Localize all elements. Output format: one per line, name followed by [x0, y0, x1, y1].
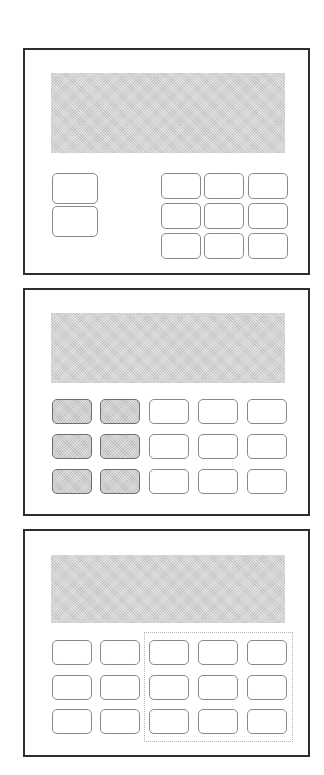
device-1-key-11[interactable] [248, 233, 288, 259]
device-2-key-13[interactable] [149, 469, 189, 494]
device-2-key-3[interactable] [149, 399, 189, 424]
device-1-key-7[interactable] [204, 203, 244, 229]
device-1-key-3[interactable] [161, 173, 201, 199]
device-3-key-12[interactable] [100, 709, 140, 734]
device-2-key-11-shaded[interactable] [52, 469, 92, 494]
device-2-key-5[interactable] [247, 399, 287, 424]
device-2-key-8[interactable] [149, 434, 189, 459]
device-2-display-panel [51, 313, 285, 383]
device-1-key-10[interactable] [204, 233, 244, 259]
device-2-key-9[interactable] [198, 434, 238, 459]
device-3-key-10[interactable] [247, 675, 287, 700]
device-2-key-12-shaded[interactable] [100, 469, 140, 494]
device-1-key-1[interactable] [52, 173, 98, 204]
device-3-key-7[interactable] [100, 675, 140, 700]
device-1-key-8[interactable] [248, 203, 288, 229]
device-2-key-4[interactable] [198, 399, 238, 424]
device-2-key-6-shaded[interactable] [52, 434, 92, 459]
device-3-key-14[interactable] [198, 709, 238, 734]
device-3-key-5[interactable] [247, 640, 287, 665]
device-2-key-7-shaded[interactable] [100, 434, 140, 459]
device-3-display-panel [51, 555, 285, 623]
device-1-key-2[interactable] [52, 206, 98, 237]
device-3-key-3[interactable] [149, 640, 189, 665]
device-1-key-4[interactable] [204, 173, 244, 199]
device-2-key-2-shaded[interactable] [100, 399, 140, 424]
device-3-key-2[interactable] [100, 640, 140, 665]
device-1-key-6[interactable] [161, 203, 201, 229]
device-3-key-8[interactable] [149, 675, 189, 700]
device-3-key-11[interactable] [52, 709, 92, 734]
device-1-key-5[interactable] [248, 173, 288, 199]
device-2-key-15[interactable] [247, 469, 287, 494]
device-3-key-15[interactable] [247, 709, 287, 734]
device-2-key-14[interactable] [198, 469, 238, 494]
device-1-display-panel [51, 73, 285, 153]
device-3-key-1[interactable] [52, 640, 92, 665]
device-3-key-4[interactable] [198, 640, 238, 665]
device-1-key-9[interactable] [161, 233, 201, 259]
device-3-key-9[interactable] [198, 675, 238, 700]
device-3-key-13[interactable] [149, 709, 189, 734]
device-2-key-10[interactable] [247, 434, 287, 459]
device-3-key-6[interactable] [52, 675, 92, 700]
device-2-key-1-shaded[interactable] [52, 399, 92, 424]
